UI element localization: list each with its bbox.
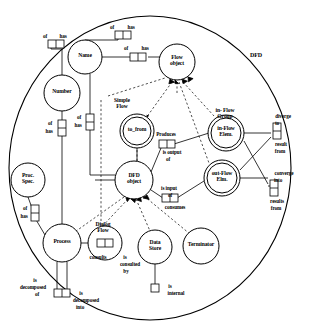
group-label-in_flow_group: in- Flow Group <box>201 108 249 120</box>
role-label: diverge <box>261 114 305 119</box>
role-label: is <box>148 284 192 289</box>
role-label: has <box>41 34 85 39</box>
role-label: from <box>258 149 302 154</box>
entity-label-terminator: Terminator <box>173 242 229 248</box>
entity-label-number: Number <box>34 89 90 95</box>
universe-label: DFD <box>250 52 262 58</box>
role-label: into <box>256 178 300 183</box>
entity-label-name: Name <box>57 53 113 59</box>
role-label: is <box>59 291 103 296</box>
role-label: has <box>27 129 71 134</box>
entity-circles <box>11 40 244 264</box>
role-label: of <box>15 292 59 297</box>
role-label: to <box>255 121 299 126</box>
role-label: results <box>255 199 299 204</box>
group-label-dialog_flow_label: Dialog Flow <box>79 222 127 234</box>
entity-label-proc_spec: Proc. Spec. <box>0 173 56 185</box>
role-label: has <box>56 123 100 128</box>
role-label: decomposed <box>64 298 108 303</box>
role-label: consulted <box>108 262 152 267</box>
role-label: decomposed <box>11 285 55 290</box>
role-label: has <box>109 25 153 30</box>
role-label: is <box>103 255 147 260</box>
role-label: is <box>13 278 57 283</box>
role-label: of <box>3 206 47 211</box>
entity-label-flow_object: Flow object <box>149 55 205 67</box>
role-label: of <box>146 157 190 162</box>
role-label: of <box>148 193 192 198</box>
role-label: by <box>104 269 148 274</box>
entity-label-process: Process <box>34 239 90 245</box>
role-label: has <box>123 46 167 51</box>
role-label: converge <box>262 171 306 176</box>
role-label: result <box>259 142 303 147</box>
entity-label-out_flow_elm: out-Flow Elm. <box>194 171 250 183</box>
role-label: consumes <box>153 205 197 210</box>
role-label: into <box>58 305 102 310</box>
role-label: from <box>254 206 298 211</box>
entity-label-in_flow_elm: in-Flow Elem. <box>198 126 254 138</box>
role-label: Produces <box>144 132 188 137</box>
role-label: has <box>2 214 46 219</box>
group-label-simple_flow: Simple Flow <box>98 98 146 110</box>
role-label: is input <box>147 186 191 191</box>
role-label: is output <box>150 150 194 155</box>
role-label: internal <box>154 291 198 296</box>
entity-label-dfd_object: DFD object <box>106 173 162 185</box>
role-label: of <box>57 115 101 120</box>
diagram-canvas: NameNumberFlow objectto_fromDFD objectin… <box>0 0 310 329</box>
